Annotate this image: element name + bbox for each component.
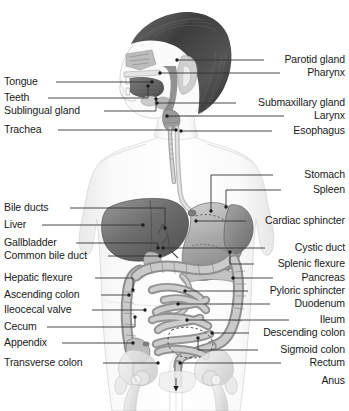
label-cecum: Cecum — [4, 321, 37, 332]
label-pharynx: Pharynx — [307, 67, 345, 78]
anatomy-diagram: TongueTeethSublingual glandTracheaBile d… — [0, 0, 349, 411]
label-gallbladder: Gallbladder — [4, 237, 57, 248]
label-splenic-flexure: Splenic flexure — [278, 258, 345, 269]
label-ascending-colon: Ascending colon — [4, 289, 80, 300]
label-duodenum: Duodenum — [294, 298, 345, 309]
label-tongue: Tongue — [4, 76, 38, 87]
label-submaxillary-gland: Submaxillary gland — [258, 97, 345, 108]
label-layer: TongueTeethSublingual glandTracheaBile d… — [0, 0, 349, 411]
label-sublingual-gland: Sublingual gland — [4, 105, 80, 116]
label-common-bile-duct: Common bile duct — [4, 250, 87, 261]
label-stomach: Stomach — [304, 169, 345, 180]
label-ileocecal-valve: Ileocecal valve — [4, 304, 71, 315]
label-trachea: Trachea — [4, 124, 41, 135]
label-hepatic-flexure: Hepatic flexure — [4, 272, 73, 283]
label-liver: Liver — [4, 219, 26, 230]
label-teeth: Teeth — [4, 92, 29, 103]
label-sigmoid-colon: Sigmoid colon — [280, 344, 345, 355]
label-descending-colon: Descending colon — [263, 327, 345, 338]
label-esophagus: Esophagus — [293, 125, 345, 136]
label-spleen: Spleen — [313, 184, 345, 195]
label-transverse-colon: Transverse colon — [4, 357, 83, 368]
label-bile-ducts: Bile ducts — [4, 202, 49, 213]
label-cardiac-sphincter: Cardiac sphincter — [265, 215, 345, 226]
label-rectum: Rectum — [309, 357, 345, 368]
label-ileum: Ileum — [320, 314, 345, 325]
label-parotid-gland: Parotid gland — [284, 54, 345, 65]
label-appendix: Appendix — [4, 337, 47, 348]
label-pancreas: Pancreas — [301, 272, 345, 283]
label-cystic-duct: Cystic duct — [295, 242, 345, 253]
label-anus: Anus — [321, 375, 345, 386]
label-larynx: Larynx — [314, 110, 345, 121]
label-pyloric-sphincter: Pyloric sphincter — [270, 285, 345, 296]
